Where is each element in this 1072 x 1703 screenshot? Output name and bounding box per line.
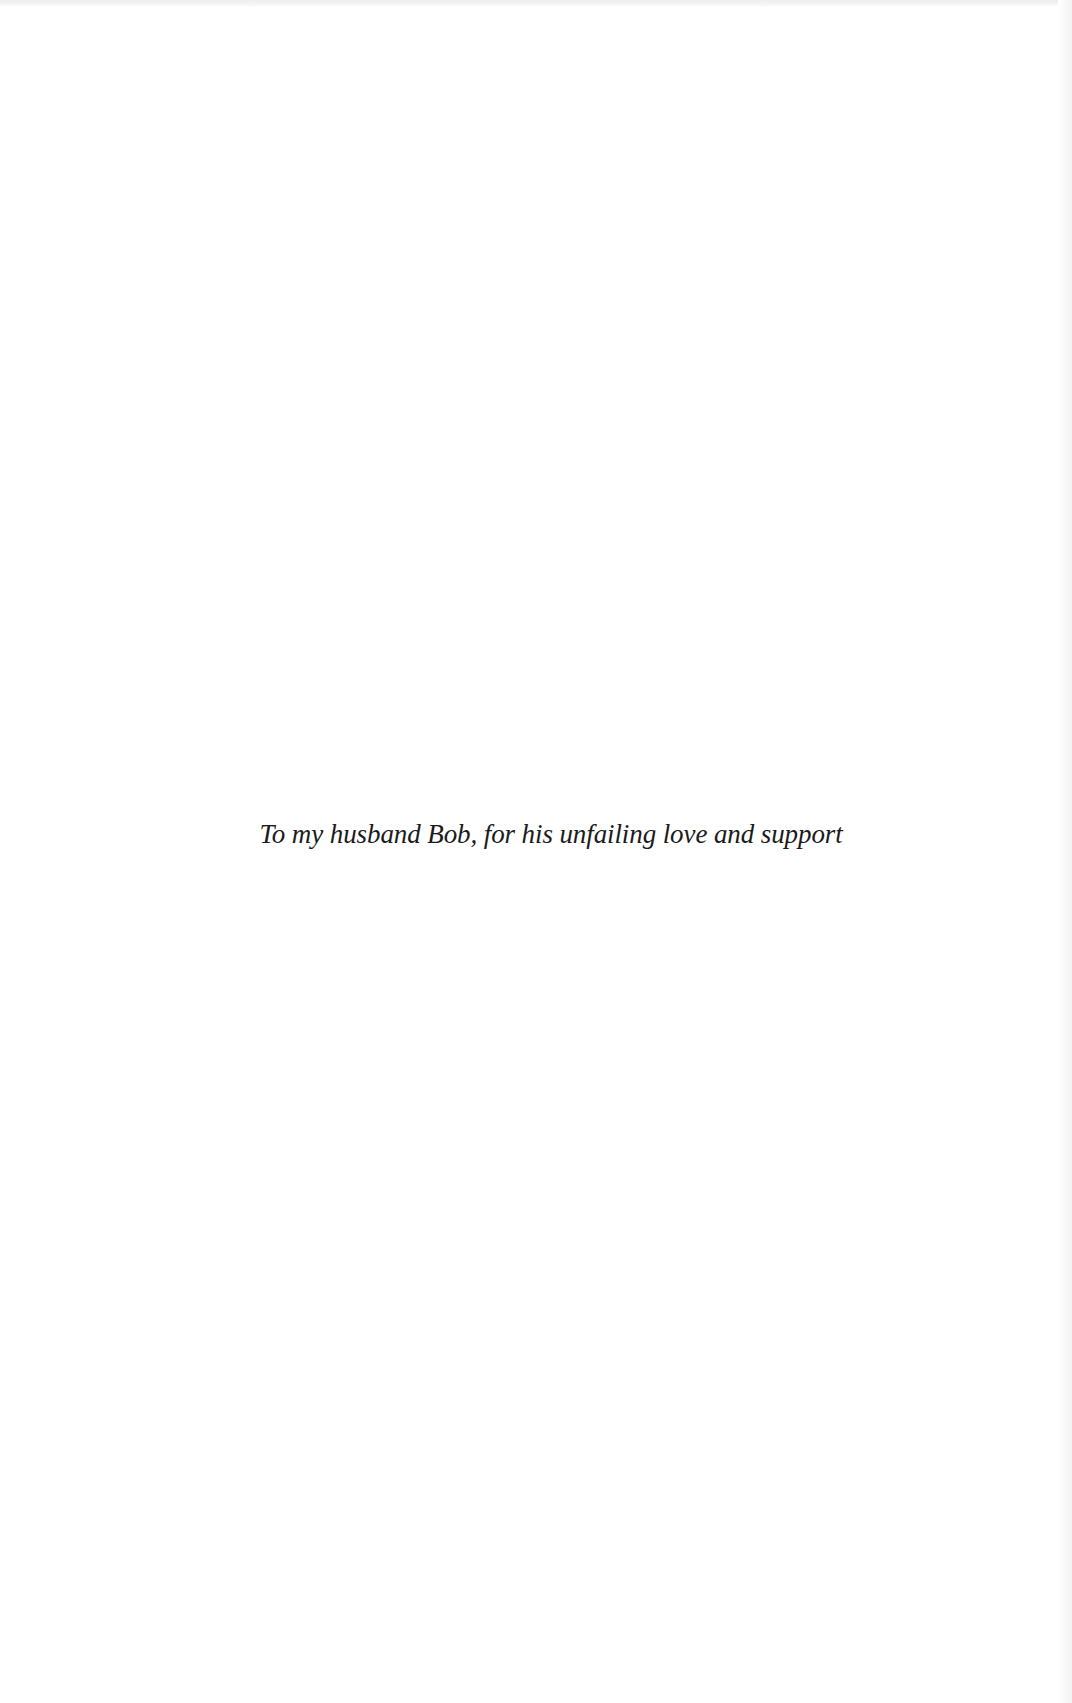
- dedication-text: To my husband Bob, for his unfailing lov…: [0, 817, 1072, 851]
- book-page: To my husband Bob, for his unfailing lov…: [0, 0, 1072, 1703]
- scan-top-edge: [0, 0, 1072, 7]
- scan-right-edge: [1058, 0, 1072, 1703]
